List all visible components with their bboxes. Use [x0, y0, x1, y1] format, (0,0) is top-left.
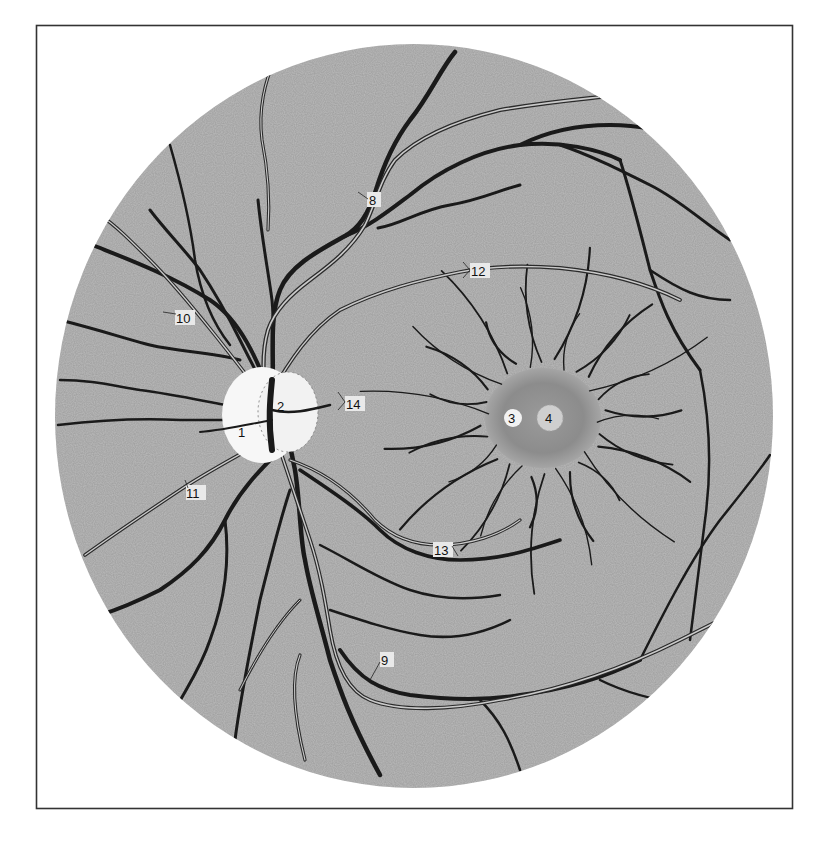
fundus-texture	[55, 44, 773, 788]
label-14: 14	[346, 397, 360, 412]
label-8: 8	[369, 193, 376, 208]
label-10: 10	[176, 311, 190, 326]
label-9: 9	[381, 653, 388, 668]
label-11: 11	[186, 486, 200, 501]
label-12: 12	[471, 264, 485, 279]
label-3: 3	[508, 411, 515, 426]
label-2: 2	[277, 399, 284, 414]
fundus-diagram: 1 2 3 4 8 9 10 11 12 13 14	[0, 0, 830, 849]
label-13: 13	[434, 543, 448, 558]
label-4: 4	[545, 411, 552, 426]
label-1: 1	[238, 425, 245, 440]
